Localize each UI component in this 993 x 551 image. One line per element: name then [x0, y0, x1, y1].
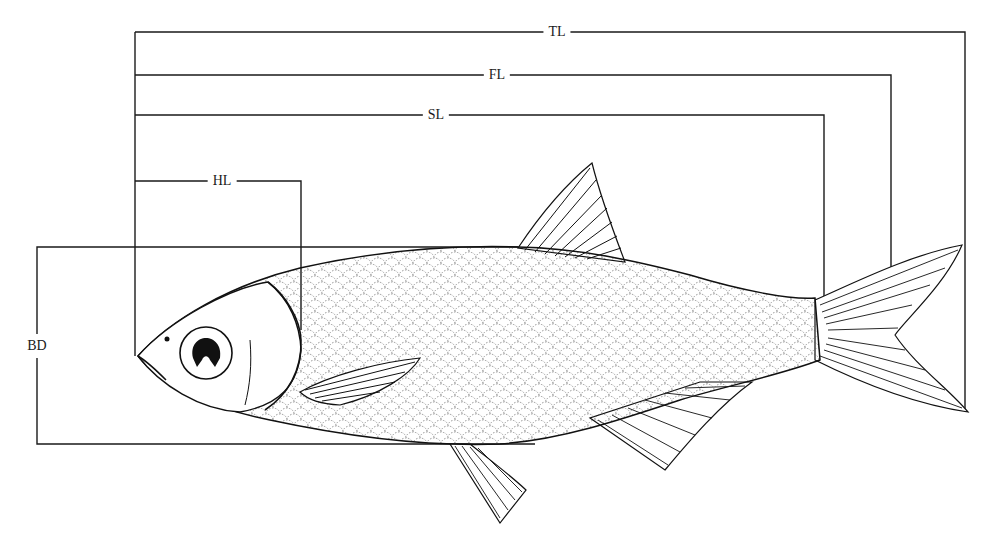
sl-label: SL: [423, 107, 449, 123]
fish-measurement-diagram: TL FL SL HL BD: [0, 0, 993, 551]
fl-label: FL: [484, 67, 510, 83]
hl-label: HL: [208, 173, 237, 189]
nostril: [165, 337, 170, 342]
bd-label: BD: [27, 334, 46, 358]
tl-label: TL: [543, 24, 570, 40]
